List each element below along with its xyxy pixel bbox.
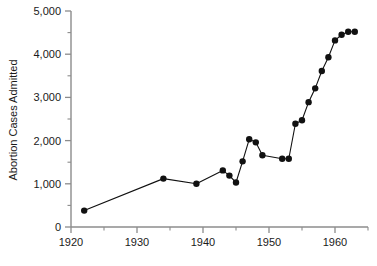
y-tick-label: 5,000: [33, 5, 61, 17]
y-tick-label: 0: [55, 221, 61, 233]
data-point: [286, 156, 292, 162]
data-point: [246, 136, 252, 142]
y-axis-tick-labels: 01,0002,0003,0004,0005,000: [33, 5, 61, 233]
y-tick-label: 2,000: [33, 135, 61, 147]
data-point: [160, 175, 166, 181]
series-line-abortion-cases: [84, 32, 355, 211]
y-axis-ticks: [65, 11, 71, 227]
y-tick-label: 4,000: [33, 48, 61, 60]
data-point: [279, 156, 285, 162]
y-tick-label: 3,000: [33, 91, 61, 103]
data-point: [299, 117, 305, 123]
data-point: [193, 181, 199, 187]
y-tick-label: 1,000: [33, 178, 61, 190]
data-point: [259, 152, 265, 158]
data-point: [239, 158, 245, 164]
chart-figure: 01,0002,0003,0004,0005,000 1920193019401…: [0, 0, 377, 266]
data-point: [319, 68, 325, 74]
x-tick-label: 1930: [125, 236, 149, 248]
y-axis-title: Abortion Cases Admitted: [7, 59, 19, 180]
x-axis-ticks: [71, 227, 368, 233]
data-point: [305, 99, 311, 105]
data-point: [81, 207, 87, 213]
data-point: [332, 37, 338, 43]
data-point: [253, 139, 259, 145]
data-point: [226, 172, 232, 178]
data-point: [352, 29, 358, 35]
data-point: [325, 54, 331, 60]
data-point: [292, 121, 298, 127]
x-axis-tick-labels: 19201930194019501960: [59, 236, 347, 248]
x-tick-label: 1960: [323, 236, 347, 248]
data-point: [233, 179, 239, 185]
series-markers: [81, 29, 358, 214]
data-point: [220, 167, 226, 173]
data-point: [312, 85, 318, 91]
data-point: [345, 29, 351, 35]
x-tick-label: 1940: [191, 236, 215, 248]
x-tick-label: 1950: [257, 236, 281, 248]
line-chart: 01,0002,0003,0004,0005,000 1920193019401…: [0, 0, 377, 266]
x-tick-label: 1920: [59, 236, 83, 248]
data-point: [338, 32, 344, 38]
